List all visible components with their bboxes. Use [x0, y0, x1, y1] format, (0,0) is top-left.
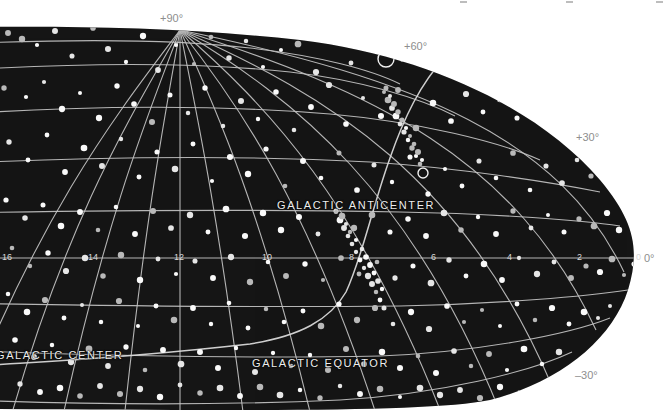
ra-label-6: 6	[431, 252, 436, 262]
dec-label-zero: 0°	[644, 252, 655, 264]
ra-label-16: 16	[2, 252, 12, 262]
ra-label-0: 0	[636, 252, 641, 262]
dec-label-minus30: –30°	[575, 369, 598, 381]
dec-label-plus30: +30°	[576, 131, 599, 143]
ra-label-10: 10	[262, 252, 272, 262]
ra-label-14: 14	[88, 252, 98, 262]
ra-label-4: 4	[507, 252, 512, 262]
star-chart-figure: +90° +60° +30° 0° –30° 16 14 12 10 8 6 4…	[0, 0, 665, 419]
ra-label-12: 12	[174, 252, 184, 262]
dec-label-plus90: +90°	[160, 12, 183, 24]
dec-label-plus60: +60°	[404, 40, 427, 52]
grain-texture	[0, 0, 665, 419]
ra-label-8: 8	[349, 252, 354, 262]
sky-map-canvas	[0, 0, 665, 419]
ra-label-2: 2	[577, 252, 582, 262]
